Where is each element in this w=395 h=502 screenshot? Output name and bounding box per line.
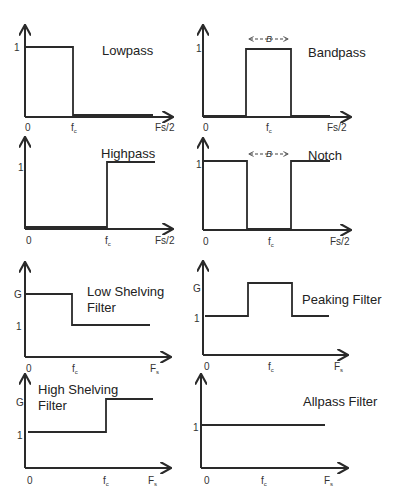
- y-tick-1: 1: [196, 159, 202, 170]
- y-tick-1: 1: [17, 430, 23, 441]
- x-tick-0: 0: [203, 236, 209, 247]
- panel-title-line2: Filter: [87, 300, 117, 315]
- y-tick-1: 1: [193, 422, 199, 433]
- x-tick-0: 0: [204, 361, 210, 372]
- x-tick-0: 0: [26, 363, 32, 374]
- x-tick-fs: Fs: [148, 475, 157, 487]
- panel-title: Allpass Filter: [303, 394, 378, 409]
- panel-notch: B 1 0 fc Fs/2 Notch: [196, 139, 350, 248]
- bandwidth-label: B: [266, 34, 272, 44]
- panel-title: Bandpass: [308, 45, 366, 60]
- response-curve: [25, 162, 155, 227]
- panel-highpass: 1 0 fc Fs/2 Highpass: [18, 138, 175, 247]
- x-tick-fc: fc: [105, 235, 111, 247]
- panel-title: Highpass: [101, 146, 156, 161]
- x-tick-0: 0: [26, 235, 32, 246]
- x-tick-fs: Fs: [324, 475, 333, 487]
- y-tick-1: 1: [16, 321, 22, 332]
- panel-title-line1: Low Shelving: [87, 284, 164, 299]
- filter-types-diagram: 1 0 fc Fs/2 Lowpass B 1 0 fc Fs/2 Bandpa…: [0, 0, 395, 502]
- panel-title-line1: High Shelving: [38, 382, 118, 397]
- panel-title: Notch: [308, 148, 342, 163]
- x-tick-fs2: Fs/2: [155, 235, 175, 246]
- x-tick-fs: Fs: [150, 363, 159, 375]
- x-tick-fs2: Fs/2: [330, 236, 350, 247]
- x-tick-fs2: Fs/2: [327, 122, 347, 133]
- y-tick-g: G: [14, 289, 22, 300]
- x-tick-fc: fc: [72, 363, 78, 375]
- y-tick-1: 1: [14, 42, 20, 53]
- panel-high-shelving: G 1 0 fc Fs High Shelving Filter: [16, 375, 170, 487]
- x-tick-0: 0: [27, 475, 33, 486]
- panel-low-shelving: G 1 0 fc Fs Low Shelving Filter: [14, 263, 170, 375]
- panel-title: Lowpass: [102, 43, 154, 58]
- y-tick-g: G: [16, 397, 24, 408]
- y-tick-1: 1: [194, 313, 200, 324]
- panel-bandpass: B 1 0 fc Fs/2 Bandpass: [196, 26, 366, 134]
- y-tick-1: 1: [18, 162, 24, 173]
- panel-title: Peaking Filter: [302, 292, 382, 307]
- panel-title-line2: Filter: [38, 398, 68, 413]
- x-tick-0: 0: [204, 475, 210, 486]
- x-tick-fc: fc: [261, 475, 267, 487]
- x-tick-fs2: Fs/2: [155, 122, 175, 133]
- bandwidth-label: B: [266, 149, 272, 159]
- panel-allpass: 1 0 fc Fs Allpass Filter: [193, 375, 378, 487]
- x-tick-0: 0: [203, 122, 209, 133]
- x-tick-fc: fc: [268, 236, 274, 248]
- panel-lowpass: 1 0 fc Fs/2 Lowpass: [14, 26, 175, 134]
- panel-peaking: G 1 0 fc Fs Peaking Filter: [193, 262, 382, 373]
- x-tick-fc: fc: [266, 122, 272, 134]
- response-curve: [203, 161, 330, 229]
- x-tick-fc: fc: [103, 475, 109, 487]
- x-tick-0: 0: [25, 122, 31, 133]
- y-tick-g: G: [193, 283, 201, 294]
- x-tick-fc: fc: [71, 122, 77, 134]
- x-tick-fs: Fs: [334, 361, 343, 373]
- y-tick-1: 1: [196, 43, 202, 54]
- x-tick-fc: fc: [268, 361, 274, 373]
